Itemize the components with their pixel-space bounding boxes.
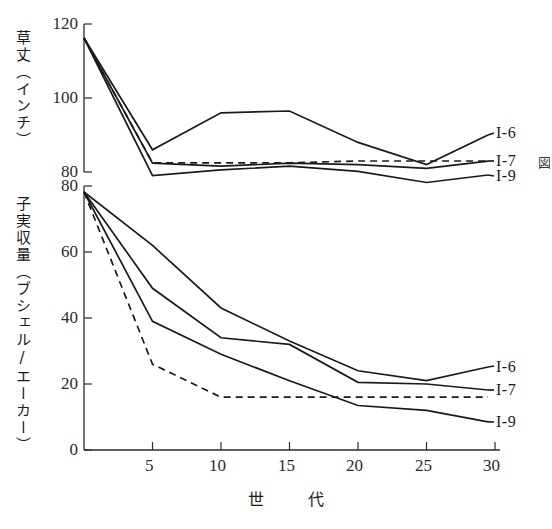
top-leader-i6 xyxy=(488,133,494,135)
xtick-label-25: 25 xyxy=(415,456,432,476)
bottom-ytick-label-20: 20 xyxy=(34,374,78,394)
xtick-label-15: 15 xyxy=(278,456,295,476)
top-y-axis-title: 草丈（インチ） xyxy=(12,30,33,149)
bottom-series-i7 xyxy=(84,192,488,397)
x-axis-title: 世 代 xyxy=(248,486,338,510)
xtick-label-30: 30 xyxy=(483,456,500,476)
xtick-label-20: 20 xyxy=(346,456,363,476)
bottom-series-i6b xyxy=(84,192,488,390)
bottom-ytick-label-0: 0 xyxy=(34,440,78,460)
bottom-series-i9 xyxy=(84,192,488,422)
top-leader-i9 xyxy=(488,175,494,176)
top-series-i6 xyxy=(84,38,488,165)
bottom-series-i6 xyxy=(84,192,488,381)
bottom-y-axis-title: 子実収量（ブシェル/エーカー） xyxy=(12,196,33,454)
bottom-ytick-label-60: 60 xyxy=(34,242,78,262)
top-ytick-label-100: 100 xyxy=(34,88,78,108)
bottom-ytick-label-40: 40 xyxy=(34,308,78,328)
bottom-leader-i6 xyxy=(488,366,494,367)
top-series-label-i9: I-9 xyxy=(496,167,516,185)
bottom-series-label-i7: I-7 xyxy=(496,381,516,399)
figure-container: 120 100 80 草丈（インチ） I-6 I-7 I-9 図 80 60 4… xyxy=(0,0,552,529)
top-series-i7 xyxy=(84,38,488,163)
bottom-series-label-i6: I-6 xyxy=(496,358,516,376)
top-ytick-label-120: 120 xyxy=(34,14,78,34)
bottom-series-label-i9: I-9 xyxy=(496,413,516,431)
xtick-label-10: 10 xyxy=(209,456,226,476)
xtick-label-5: 5 xyxy=(145,456,154,476)
top-series-label-i6: I-6 xyxy=(496,124,516,142)
chart-canvas xyxy=(0,0,552,529)
figure-edge-mark: 図 xyxy=(538,152,550,171)
bottom-ytick-label-80: 80 xyxy=(34,176,78,196)
